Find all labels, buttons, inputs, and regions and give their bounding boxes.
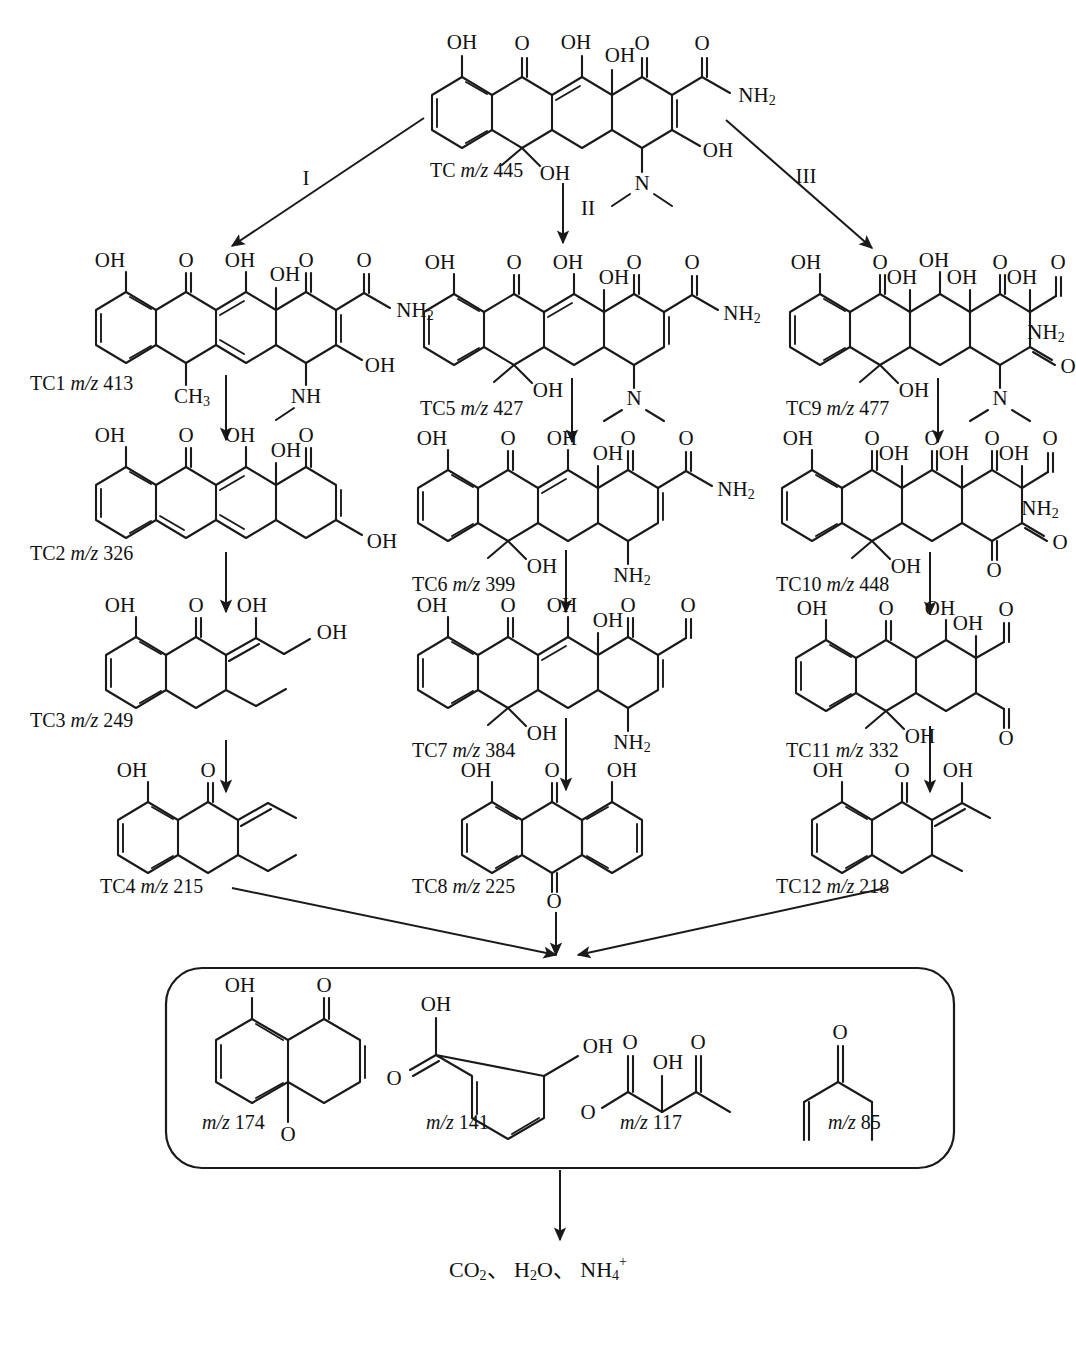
atom-O: O bbox=[626, 250, 641, 274]
atom-O: O bbox=[386, 1066, 401, 1090]
atom-O: O bbox=[690, 1030, 705, 1054]
atom-OH: OH bbox=[561, 30, 591, 54]
atom-OH: OH bbox=[797, 596, 827, 620]
atom-OH: OH bbox=[365, 353, 395, 377]
atom-NH2: NH2 bbox=[723, 301, 760, 326]
atom-OH: OH bbox=[527, 721, 557, 745]
atom-OH: OH bbox=[891, 554, 921, 578]
atom-OH: OH bbox=[887, 265, 917, 289]
atom-O: O bbox=[872, 250, 887, 274]
arrow-TC4-to-box bbox=[232, 888, 556, 955]
pathway-label-II: II bbox=[581, 196, 595, 220]
atom-O: O bbox=[634, 31, 649, 55]
atom-OH: OH bbox=[653, 1050, 683, 1074]
atom-O: O bbox=[298, 248, 313, 272]
structure-TC3: OH O OH OH TC3 m/z 249 bbox=[30, 593, 347, 731]
atom-OH: OH bbox=[553, 250, 583, 274]
atom-OH: OH bbox=[783, 426, 813, 450]
label-mz-117: m/z 117 bbox=[620, 1111, 682, 1133]
atom-O: O bbox=[580, 1100, 595, 1124]
atom-O: O bbox=[178, 248, 193, 272]
atom-N: N bbox=[634, 171, 649, 195]
atom-OH: OH bbox=[417, 593, 447, 617]
atom-OH: OH bbox=[533, 378, 563, 402]
structure-TC5: OH O OH OH O O NH2 N OH TC5 m/z 427 bbox=[420, 250, 761, 421]
atom-O: O bbox=[280, 1122, 295, 1146]
atom-OH: OH bbox=[953, 611, 983, 635]
atom-O: O bbox=[620, 426, 635, 450]
structure-TC9: OH O OH OH OH O OH O NH2 O N OH TC9 m/z … bbox=[786, 248, 1076, 421]
label-TC1: TC1 m/z 413 bbox=[30, 372, 133, 394]
atom-OH: OH bbox=[899, 378, 929, 402]
atom-OH: OH bbox=[317, 620, 347, 644]
atom-O: O bbox=[316, 973, 331, 997]
atom-OH: OH bbox=[605, 43, 635, 67]
pathway-label-I: I bbox=[303, 166, 310, 190]
atom-OH: OH bbox=[117, 758, 147, 782]
atom-NH2: NH2 bbox=[1021, 496, 1058, 521]
atom-O: O bbox=[684, 250, 699, 274]
atom-OH: OH bbox=[879, 441, 909, 465]
atom-O: O bbox=[514, 31, 529, 55]
label-TC9: TC9 m/z 477 bbox=[786, 397, 889, 419]
atom-OH: OH bbox=[1007, 265, 1037, 289]
atom-O: O bbox=[1050, 250, 1065, 274]
atom-O: O bbox=[678, 426, 693, 450]
arrow-pathway-I bbox=[232, 118, 424, 246]
atom-OH: OH bbox=[943, 758, 973, 782]
label-TC2: TC2 m/z 326 bbox=[30, 542, 133, 564]
atom-OH: OH bbox=[225, 423, 255, 447]
atom-O: O bbox=[298, 423, 313, 447]
atom-NH2: NH2 bbox=[738, 83, 775, 108]
atom-O: O bbox=[188, 593, 203, 617]
structure-TC1: OH O OH OH O O NH2 OH NH CH3 TC1 m/z 413 bbox=[30, 248, 434, 420]
atom-OH: OH bbox=[547, 426, 577, 450]
label-TC8: TC8 m/z 225 bbox=[412, 875, 515, 897]
label-TC3: TC3 m/z 249 bbox=[30, 709, 133, 731]
atom-O: O bbox=[200, 758, 215, 782]
atom-O: O bbox=[894, 758, 909, 782]
atom-CH3: CH3 bbox=[174, 384, 210, 409]
atom-NH2: NH2 bbox=[1027, 320, 1064, 345]
atom-O: O bbox=[998, 597, 1013, 621]
atom-OH: OH bbox=[95, 423, 125, 447]
atom-OH: OH bbox=[813, 758, 843, 782]
atom-OH: OH bbox=[421, 992, 451, 1016]
atom-OH: OH bbox=[540, 161, 570, 185]
atom-N: N bbox=[992, 386, 1007, 410]
atom-OH: OH bbox=[593, 608, 623, 632]
atom-O: O bbox=[506, 250, 521, 274]
atom-OH: OH bbox=[599, 265, 629, 289]
atom-O: O bbox=[500, 593, 515, 617]
structure-TC: OH O OH OH O O NH2 OH N bbox=[430, 30, 776, 206]
atom-O: O bbox=[356, 248, 371, 272]
structure-mz-174: OH O O m/z 174 bbox=[202, 973, 365, 1146]
structure-mz-141: OH O OH m/z 141 bbox=[386, 992, 613, 1139]
atom-O: O bbox=[622, 1030, 637, 1054]
atom-O: O bbox=[864, 426, 879, 450]
atom-OH: OH bbox=[919, 248, 949, 272]
atom-O: O bbox=[998, 726, 1013, 750]
atom-OH: OH bbox=[461, 758, 491, 782]
atom-OH: OH bbox=[237, 593, 267, 617]
atom-O: O bbox=[986, 558, 1001, 582]
atom-OH: OH bbox=[447, 30, 477, 54]
atom-OH: OH bbox=[607, 758, 637, 782]
structure-TC7: OH O OH OH O O NH2 OH TC7 m/z 384 bbox=[412, 593, 696, 761]
atom-OH: OH bbox=[791, 250, 821, 274]
atom-O: O bbox=[984, 426, 999, 450]
atom-O: O bbox=[924, 426, 939, 450]
degradation-pathway-scheme: OH O OH OH O O NH2 OH N bbox=[0, 0, 1076, 1349]
atom-OH: OH bbox=[367, 529, 397, 553]
atom-NH2: NH2 bbox=[613, 563, 650, 588]
structure-mz-85: O m/z 85 bbox=[804, 1020, 881, 1140]
atom-OH: OH bbox=[270, 262, 300, 286]
atom-NH2: NH2 bbox=[613, 730, 650, 755]
atom-OH: OH bbox=[95, 248, 125, 272]
arrow-TC12-to-box bbox=[578, 888, 886, 955]
atom-OH: OH bbox=[547, 593, 577, 617]
atom-OH: OH bbox=[425, 250, 455, 274]
atom-O: O bbox=[1052, 530, 1067, 554]
structure-TC8: OH O O OH TC8 m/z 225 bbox=[412, 758, 642, 913]
label-mz-174: m/z 174 bbox=[202, 1111, 265, 1133]
